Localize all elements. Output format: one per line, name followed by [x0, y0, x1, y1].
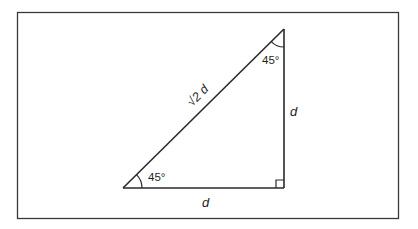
base-label: d: [202, 195, 210, 210]
top-angle-arc: [271, 42, 284, 47]
bottom-left-angle-arc: [137, 175, 143, 188]
top-angle-label: 45°: [262, 54, 279, 66]
vertical-side-label: d: [290, 104, 298, 119]
hypotenuse-line: [123, 29, 284, 188]
bottom-left-angle-label: 45°: [148, 171, 165, 183]
right-angle-marker: [276, 180, 284, 188]
diagram-canvas: 45° 45° d d √2 d: [0, 0, 418, 229]
triangle-diagram: 45° 45° d d √2 d: [0, 0, 418, 229]
